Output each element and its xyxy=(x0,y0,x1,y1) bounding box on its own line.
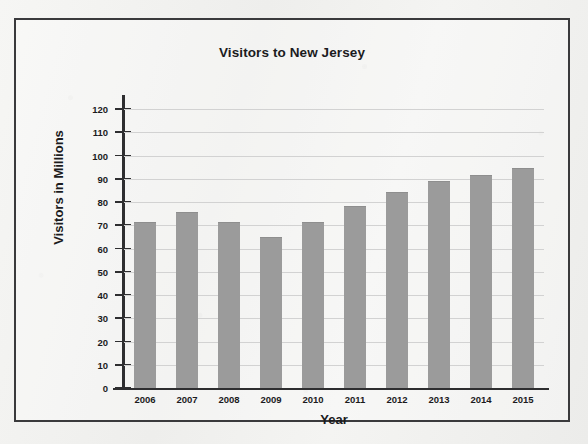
x-axis-tick-label: 2007 xyxy=(176,394,197,405)
y-axis-tick-label: 80 xyxy=(68,197,108,208)
x-axis-title: Year xyxy=(124,412,544,427)
gridline xyxy=(124,132,544,133)
bar[interactable] xyxy=(260,237,283,388)
gridline xyxy=(124,156,544,157)
x-axis-tick-label: 2012 xyxy=(386,394,407,405)
bar[interactable] xyxy=(470,175,493,388)
x-axis-tick-label: 2010 xyxy=(302,394,323,405)
plot-area xyxy=(124,109,544,388)
y-axis-tick-label: 20 xyxy=(68,336,108,347)
gridline xyxy=(124,109,544,110)
bar[interactable] xyxy=(134,222,157,388)
y-axis-tick-label: 110 xyxy=(68,127,108,138)
x-axis-tick-label: 2013 xyxy=(428,394,449,405)
y-axis-tick-label: 40 xyxy=(68,290,108,301)
y-axis-tick-label: 100 xyxy=(68,150,108,161)
x-axis-tick-label: 2014 xyxy=(470,394,491,405)
y-axis-tick-label: 30 xyxy=(68,313,108,324)
x-axis-tick-label: 2008 xyxy=(218,394,239,405)
bar[interactable] xyxy=(302,222,325,388)
bar[interactable] xyxy=(512,168,535,388)
bar[interactable] xyxy=(218,222,241,388)
x-axis-tick-label: 2011 xyxy=(345,394,366,405)
bar[interactable] xyxy=(386,192,409,388)
bar[interactable] xyxy=(428,181,451,388)
bar[interactable] xyxy=(176,212,199,388)
y-axis-tick-label: 50 xyxy=(68,266,108,277)
y-axis-tick-label: 0 xyxy=(68,383,108,394)
x-axis-tick-label: 2009 xyxy=(260,394,281,405)
x-axis-tick-label: 2006 xyxy=(134,394,155,405)
y-axis-tick-label: 90 xyxy=(68,173,108,184)
y-axis-title: Visitors in Millions xyxy=(51,108,66,268)
y-axis-tick-label: 60 xyxy=(68,243,108,254)
y-axis-tick-label: 70 xyxy=(68,220,108,231)
bar[interactable] xyxy=(344,206,367,389)
chart-title: Visitors to New Jersey xyxy=(16,45,568,60)
y-axis-tick-label: 120 xyxy=(68,104,108,115)
y-axis-tick-label: 10 xyxy=(68,359,108,370)
x-axis-tick-label: 2015 xyxy=(512,394,533,405)
chart-figure-frame: Visitors to New Jersey 01020304050607080… xyxy=(14,18,570,422)
